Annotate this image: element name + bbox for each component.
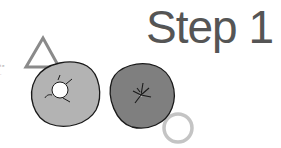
light-donut-icon xyxy=(32,62,100,126)
small-ring-icon xyxy=(164,114,192,142)
triangle-icon xyxy=(26,38,59,67)
diagram-canvas xyxy=(0,0,281,148)
dark-donut-icon xyxy=(110,64,174,128)
